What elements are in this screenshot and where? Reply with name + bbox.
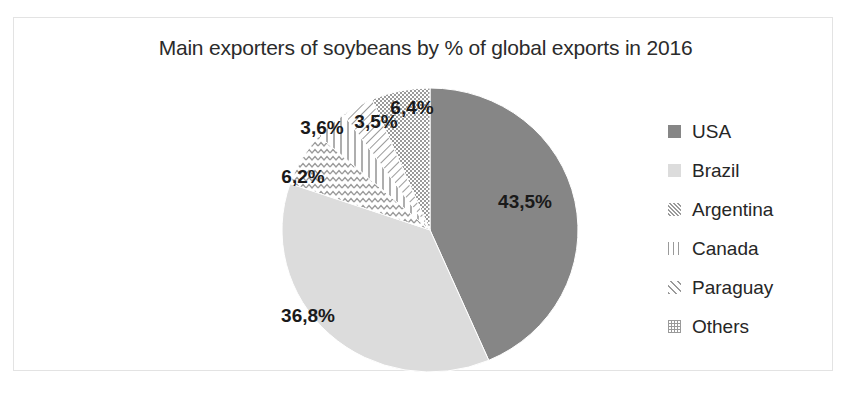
legend-label-argentina: Argentina [692,199,773,221]
legend-label-paraguay: Paraguay [692,277,773,299]
legend-item-others[interactable]: Others [668,307,843,346]
legend-swatch-others-icon [668,320,681,333]
legend-item-usa[interactable]: USA [668,112,843,151]
pie-label-brazil: 36,8% [281,305,335,326]
legend-swatch-paraguay-icon [668,281,681,294]
legend-swatch-usa-icon [668,125,681,138]
legend-label-others: Others [692,316,749,338]
chart-legend: USA Brazil Argentina Canada Paraguay Oth… [668,112,843,346]
pie-label-canada: 3,6% [300,117,343,138]
pie-label-others: 6,4% [390,97,433,118]
chart-title: Main exporters of soybeans by % of globa… [0,36,851,60]
legend-label-canada: Canada [692,238,759,260]
chart-page: Main exporters of soybeans by % of globa… [0,0,851,397]
pie-label-argentina: 6,2% [281,166,324,187]
legend-item-argentina[interactable]: Argentina [668,190,843,229]
legend-swatch-canada-icon [668,242,681,255]
pie-label-usa: 43,5% [498,191,552,212]
legend-item-brazil[interactable]: Brazil [668,151,843,190]
legend-item-paraguay[interactable]: Paraguay [668,268,843,307]
legend-swatch-brazil-icon [668,164,681,177]
legend-item-canada[interactable]: Canada [668,229,843,268]
legend-label-usa: USA [692,121,731,143]
legend-label-brazil: Brazil [692,160,740,182]
pie-chart: 43,5%36,8%6,2%3,6%3,5%6,4% [270,78,600,388]
legend-swatch-argentina-icon [668,203,681,216]
